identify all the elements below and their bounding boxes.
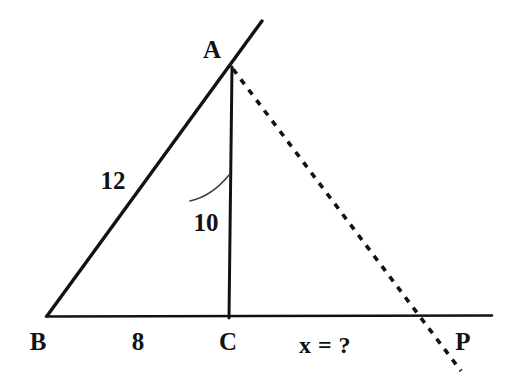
geometry-diagram: A B C P 12 10 8 x = ? <box>0 0 515 388</box>
angle-arc-marker <box>190 175 229 201</box>
vertex-label-b: B <box>30 329 47 354</box>
segment-dashed-ap <box>233 69 461 371</box>
measure-label-unknown-x: x = ? <box>299 333 351 357</box>
geometry-canvas <box>0 0 515 388</box>
segment-baseline-bp <box>46 316 492 317</box>
measure-label-bc: 8 <box>132 329 145 354</box>
measure-label-ab: 12 <box>101 168 126 193</box>
segment-altitude-ac <box>229 67 232 318</box>
vertex-label-c: C <box>219 329 237 354</box>
vertex-label-a: A <box>203 37 221 62</box>
vertex-label-p: P <box>455 329 470 354</box>
measure-label-altitude: 10 <box>194 210 219 235</box>
